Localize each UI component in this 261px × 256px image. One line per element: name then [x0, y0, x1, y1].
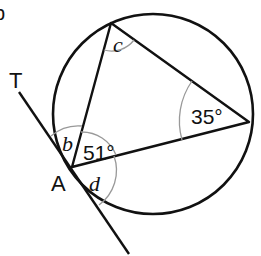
angle-label-51: 51° — [83, 141, 115, 164]
circle-theorem-diagram: b T A c b d 51° 35° — [0, 0, 261, 256]
circle — [53, 14, 253, 214]
angle-label-b: b — [62, 131, 73, 156]
corner-label: b — [0, 2, 5, 24]
tangent-line — [19, 92, 129, 254]
angle-label-d: d — [89, 171, 101, 196]
point-label-a: A — [51, 171, 66, 196]
point-label-t: T — [9, 68, 22, 93]
angle-label-c: c — [113, 32, 123, 57]
angle-label-35: 35° — [191, 105, 223, 128]
